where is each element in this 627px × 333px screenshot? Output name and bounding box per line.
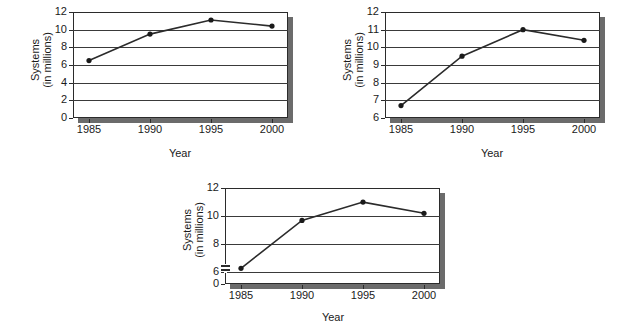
x-axis-title: Year xyxy=(303,311,363,323)
data-point-marker: 2000: 10.4 xyxy=(269,24,274,29)
chart-top-right: Systems (in millions) 6789101112 1985199… xyxy=(317,0,627,170)
data-point-marker: 1985: 6.7 xyxy=(398,103,403,108)
data-point-marker: 1990: 9.5 xyxy=(459,54,464,59)
data-series: 1985: 6.71990: 9.51995: 112000: 10.4 xyxy=(317,0,627,170)
x-axis-title: Year xyxy=(150,147,210,159)
series-line xyxy=(241,202,424,268)
series-line xyxy=(89,20,272,61)
data-point-marker: 2000: 10.2 xyxy=(421,211,426,216)
data-point-marker: 1990: 9.7 xyxy=(299,218,304,223)
data-series: 1985: 6.31990: 9.71995: 112000: 10.2 xyxy=(158,178,478,333)
data-point-marker: 1985: 6.3 xyxy=(238,266,243,271)
y-axis-break-icon xyxy=(221,264,230,273)
data-series: 1985: 6.51990: 9.51995: 11.12000: 10.4 xyxy=(0,0,320,170)
chart-bottom: Systems (in millions) 0681012 1985199019… xyxy=(158,178,478,333)
x-axis-title: Year xyxy=(462,147,522,159)
data-point-marker: 1995: 11 xyxy=(520,27,525,32)
data-point-marker: 2000: 10.4 xyxy=(581,38,586,43)
chart-top-left: Systems (in millions) 024681012 19851990… xyxy=(0,0,310,170)
data-point-marker: 1995: 11 xyxy=(360,200,365,205)
data-point-marker: 1985: 6.5 xyxy=(86,58,91,63)
data-point-marker: 1990: 9.5 xyxy=(147,31,152,36)
series-line xyxy=(401,30,584,106)
data-point-marker: 1995: 11.1 xyxy=(208,17,213,22)
